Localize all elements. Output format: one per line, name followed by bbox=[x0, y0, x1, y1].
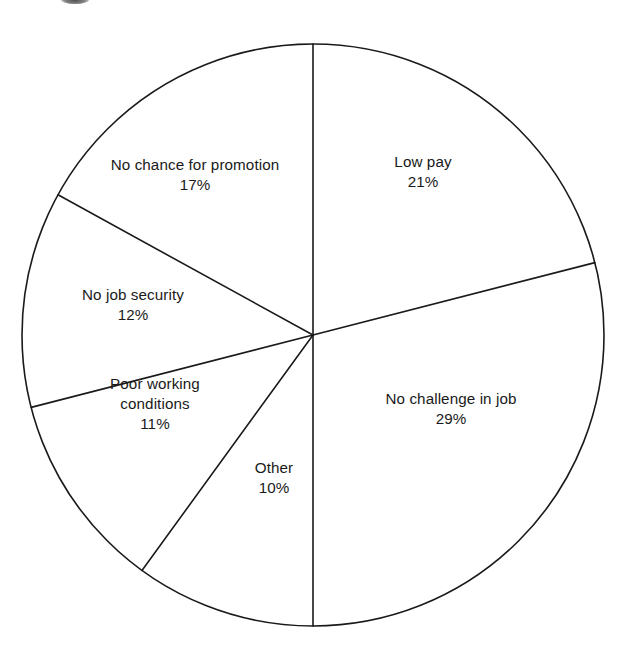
pie-chart: Low pay 21% No challenge in job 29% Othe… bbox=[0, 0, 631, 670]
pie-chart-graphic bbox=[0, 0, 631, 670]
pie-geometry bbox=[22, 44, 604, 626]
